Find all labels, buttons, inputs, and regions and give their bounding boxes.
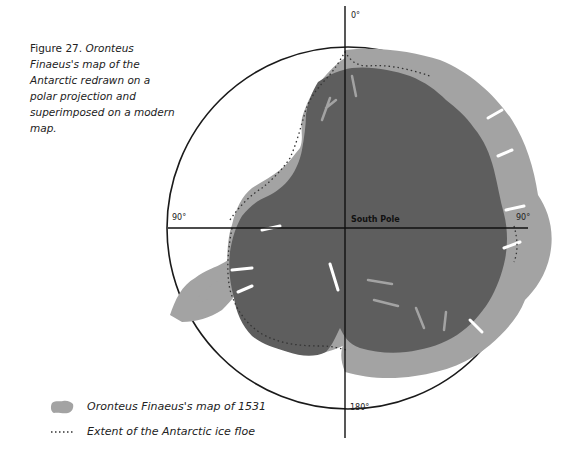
label-0-degrees: 0°	[351, 11, 360, 20]
label-90-degrees-right: 90°	[516, 213, 530, 222]
dotted-line-icon	[50, 425, 74, 439]
label-south-pole: South Pole	[351, 215, 400, 224]
grey-swatch-icon	[50, 400, 74, 414]
antarctic-polar-map: 0° 90° 90° 180° South Pole	[0, 0, 568, 466]
legend-label: Extent of the Antarctic ice floe	[87, 425, 255, 438]
label-180-degrees: 180°	[350, 403, 369, 412]
legend-label: Oronteus Finaeus's map of 1531	[87, 400, 266, 413]
label-90-degrees-left: 90°	[172, 213, 186, 222]
